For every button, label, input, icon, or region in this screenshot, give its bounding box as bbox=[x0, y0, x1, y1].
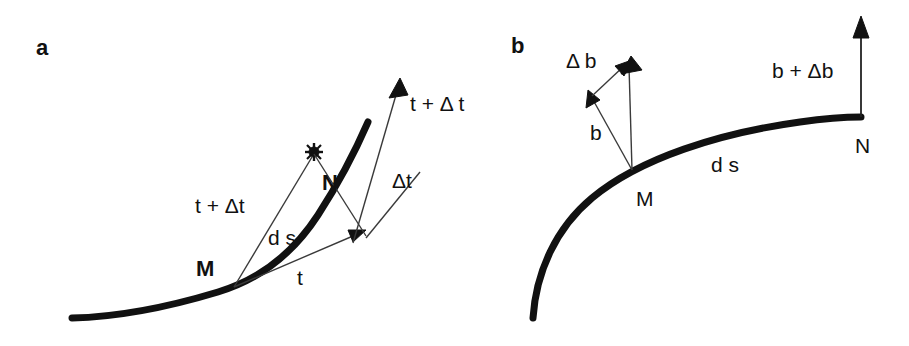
label-ds-a: d s bbox=[268, 226, 296, 249]
label-point-m-b: M bbox=[636, 187, 654, 210]
diagram-canvas: a t + Δt bbox=[0, 0, 909, 346]
label-point-n-b: N bbox=[855, 134, 870, 157]
label-ds-b: d s bbox=[711, 153, 739, 176]
panel-b-group: b Δ b b b + Δb d s M N bbox=[511, 16, 870, 318]
vector-t-plus-delta-t-translated-arrowhead bbox=[389, 78, 408, 98]
label-t-plus-delta-t-left: t + Δt bbox=[195, 194, 245, 217]
vector-b-plus-delta-b-line bbox=[629, 66, 632, 170]
label-point-n-a: N bbox=[322, 170, 338, 195]
label-delta-b: Δ b bbox=[566, 49, 596, 72]
vector-tip-star-marker bbox=[305, 143, 323, 161]
label-vector-b: b bbox=[590, 121, 602, 144]
label-point-m-a: M bbox=[196, 256, 214, 281]
label-b-plus-delta-b: b + Δb bbox=[772, 59, 833, 82]
panel-a-group: a t + Δt bbox=[36, 35, 464, 318]
label-vector-t: t bbox=[297, 266, 303, 289]
panel-a-letter: a bbox=[36, 35, 49, 60]
vector-t-plus-delta-t-translated-line bbox=[353, 88, 398, 243]
label-t-plus-delta-t-right: t + Δ t bbox=[410, 92, 464, 115]
label-delta-t: Δt bbox=[392, 169, 412, 192]
curve-b bbox=[533, 117, 861, 318]
vector-b-arrowhead bbox=[586, 90, 600, 108]
curve-a bbox=[72, 122, 368, 318]
figure-container: a t + Δt bbox=[0, 0, 909, 346]
panel-b-letter: b bbox=[511, 33, 524, 58]
vector-b-plus-delta-b-at-n-arrowhead bbox=[853, 16, 869, 38]
